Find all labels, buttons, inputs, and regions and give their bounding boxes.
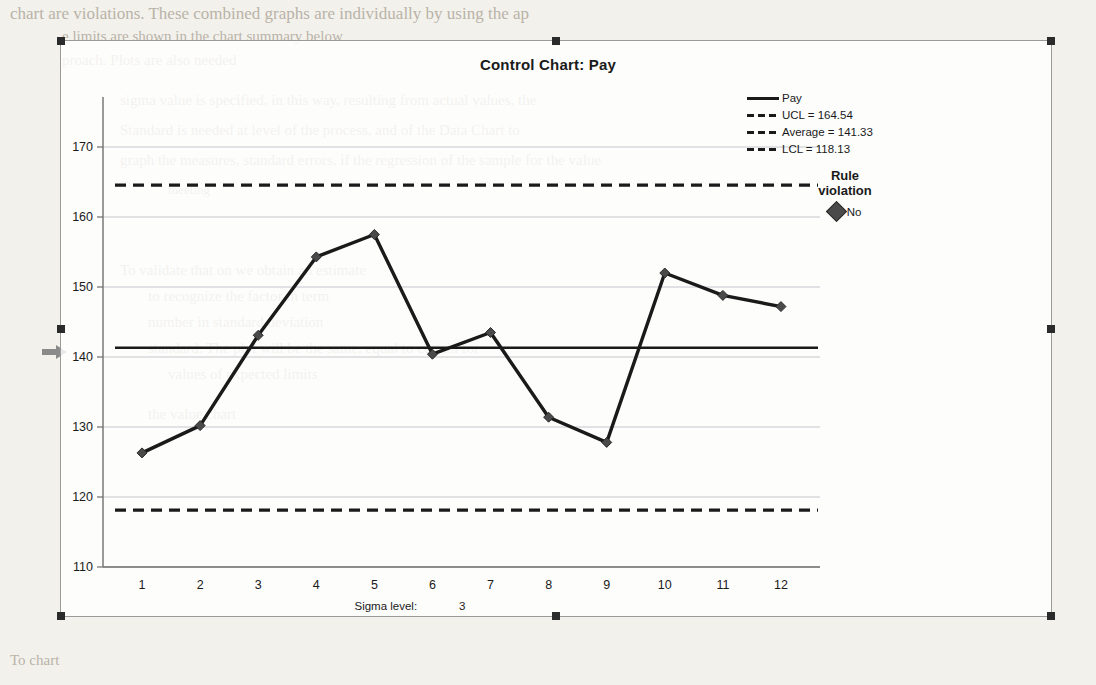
control-limit-lines — [115, 185, 818, 510]
svg-text:150: 150 — [72, 280, 93, 294]
svg-text:12: 12 — [774, 578, 788, 592]
legend-label: Pay — [782, 92, 802, 104]
legend-item-ucl[interactable]: UCL = 164.54 — [745, 107, 945, 123]
svg-text:7: 7 — [487, 578, 494, 592]
svg-text:1: 1 — [139, 578, 146, 592]
svg-text:110: 110 — [73, 560, 93, 574]
rule-violation-title-line1: Rule — [745, 168, 945, 183]
svg-text:160: 160 — [72, 210, 93, 224]
sigma-level-label: Sigma level: — [354, 600, 417, 612]
svg-text:4: 4 — [313, 578, 320, 592]
legend-item-lcl[interactable]: LCL = 118.13 — [745, 141, 945, 157]
chart-legend: Pay UCL = 164.54 Average = 141.33 LCL = … — [745, 90, 945, 158]
rule-violation-value: No — [847, 206, 862, 218]
diamond-marker-icon — [826, 201, 847, 222]
legend-key-dashed-icon — [745, 127, 779, 137]
svg-text:140: 140 — [72, 350, 93, 364]
legend-item-average[interactable]: Average = 141.33 — [745, 124, 945, 140]
svg-text:3: 3 — [255, 578, 262, 592]
svg-text:6: 6 — [429, 578, 436, 592]
rule-violation-item[interactable]: No — [745, 204, 945, 219]
svg-text:11: 11 — [716, 578, 729, 592]
rule-violation-legend: Rule violation No — [745, 168, 945, 219]
svg-text:5: 5 — [371, 578, 378, 592]
pay-series-line — [142, 235, 781, 453]
legend-item-pay[interactable]: Pay — [745, 90, 945, 106]
x-axis-tick-labels: 123456789101112 — [139, 578, 788, 592]
svg-text:8: 8 — [545, 578, 552, 592]
rule-violation-title: Rule violation — [745, 168, 945, 198]
svg-text:170: 170 — [72, 140, 93, 154]
gridlines — [103, 147, 820, 567]
legend-key-solid-icon — [745, 93, 779, 103]
svg-text:9: 9 — [603, 578, 610, 592]
legend-label: UCL = 164.54 — [782, 109, 853, 121]
rule-violation-title-line2: violation — [745, 183, 945, 198]
svg-text:130: 130 — [72, 420, 93, 434]
sigma-level-value: 3 — [459, 600, 465, 612]
legend-label: Average = 141.33 — [782, 126, 873, 138]
svg-text:2: 2 — [197, 578, 204, 592]
sigma-level-footer: Sigma level: 3 — [60, 600, 760, 612]
y-axis-tick-labels: 110120130140150160170 — [72, 140, 93, 574]
legend-key-dashed-icon — [745, 110, 779, 120]
legend-label: LCL = 118.13 — [782, 143, 850, 155]
svg-text:120: 120 — [72, 490, 93, 504]
legend-key-dashed-icon — [745, 144, 779, 154]
svg-text:10: 10 — [658, 578, 672, 592]
